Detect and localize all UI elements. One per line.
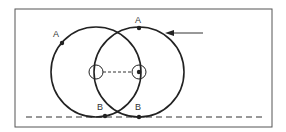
left-circle [51,27,141,117]
right-center-dot [137,70,141,74]
label-b-left: B [97,102,103,112]
diagram-canvas: A A B B [0,0,286,132]
point-a-right [137,26,141,30]
label-a-left: A [53,29,59,39]
point-b-left [103,114,107,118]
label-a-right: A [135,15,141,25]
left-center-marker [89,65,103,79]
arrow-head-icon [165,30,174,36]
point-a-left [60,41,64,45]
label-b-right: B [135,102,141,112]
point-b-right [137,115,141,119]
